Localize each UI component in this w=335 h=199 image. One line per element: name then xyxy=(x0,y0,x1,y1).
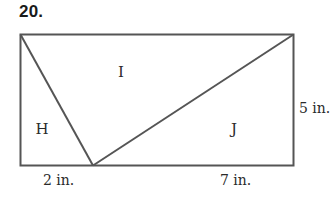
region-label-i: I xyxy=(118,65,124,80)
diagonal-right xyxy=(93,35,294,166)
region-label-h: H xyxy=(35,122,48,137)
height-dimension-label: 5 in. xyxy=(299,101,330,115)
outer-rectangle xyxy=(21,35,294,166)
diagonal-left xyxy=(21,35,94,166)
bottom-left-dimension-label: 2 in. xyxy=(43,173,74,187)
bottom-right-dimension-label: 7 in. xyxy=(220,173,251,187)
region-label-j: J xyxy=(231,122,237,137)
rectangle-figure xyxy=(0,0,335,199)
